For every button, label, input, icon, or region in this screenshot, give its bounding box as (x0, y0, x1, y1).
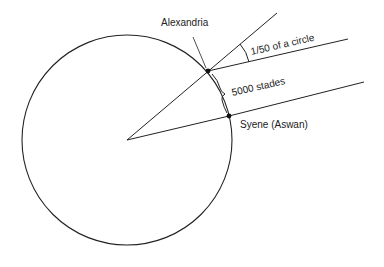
alexandria-label: Alexandria (161, 18, 208, 28)
angle-arc (240, 44, 249, 62)
alexandria-dot (206, 69, 211, 74)
eratosthenes-diagram (0, 0, 384, 267)
syene-label: Syene (Aswan) (240, 120, 308, 130)
syene-dot (227, 114, 232, 119)
radius-to-syene (127, 116, 229, 140)
distance-brace (212, 74, 227, 113)
